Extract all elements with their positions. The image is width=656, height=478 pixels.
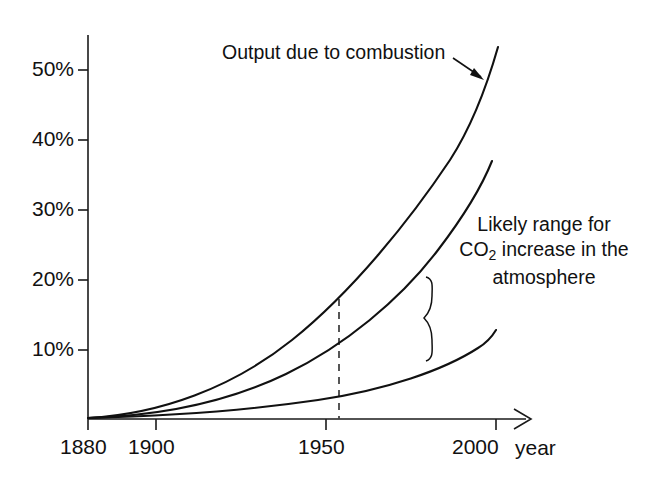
annotation-co2-likely-range: Likely range for CO2 increase in the atm…	[444, 212, 644, 290]
annotation-co2-prefix: CO	[459, 238, 488, 260]
x-axis-label-1950: 1950	[298, 436, 345, 457]
curve-output-due-to-combustion	[88, 47, 498, 418]
y-axis-label-40: 40%	[18, 128, 74, 149]
x-axis-label-1900: 1900	[128, 436, 175, 457]
annotation-co2-line-2: CO2 increase in the	[444, 237, 644, 265]
annotation-output-due-to-combustion: Output due to combustion	[222, 40, 445, 65]
annotation-co2-suffix: increase in the	[496, 238, 628, 260]
x-axis-label-2000: 2000	[452, 436, 499, 457]
y-axis-label-20: 20%	[18, 268, 74, 289]
annotation-co2-line-3: atmosphere	[444, 265, 644, 290]
y-axis-label-50: 50%	[18, 58, 74, 79]
curve-likely-range-upper	[88, 161, 492, 418]
likely-range-brace	[424, 277, 432, 361]
curve-likely-range-lower	[88, 330, 496, 418]
x-axis-title: year	[515, 436, 556, 460]
y-axis-label-10: 10%	[18, 338, 74, 359]
y-axis-label-30: 30%	[18, 198, 74, 219]
annotation-co2-line-1: Likely range for	[444, 212, 644, 237]
combustion-pointer-arrowhead	[470, 68, 484, 80]
co2-emissions-chart: 50% 40% 30% 20% 10% 1880 1900 1950 2000 …	[0, 0, 656, 478]
x-axis-label-1880: 1880	[60, 436, 107, 457]
